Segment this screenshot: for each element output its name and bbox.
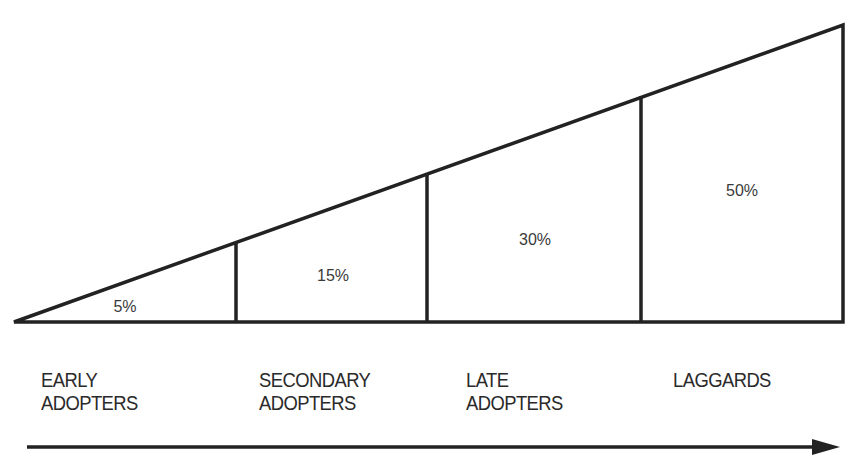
label-line: LAGGARDS — [673, 369, 771, 392]
percent-laggards: 50% — [726, 182, 758, 199]
label-line: SECONDARY — [259, 369, 370, 392]
label-line: ADOPTERS — [466, 392, 563, 415]
label-line: ADOPTERS — [259, 392, 370, 415]
label-line: ADOPTERS — [41, 392, 138, 415]
percent-early: 5% — [113, 298, 136, 315]
label-late-adopters: LATE ADOPTERS — [466, 369, 563, 415]
label-secondary-adopters: SECONDARY ADOPTERS — [259, 369, 370, 415]
percent-secondary: 15% — [317, 267, 349, 284]
arrow-right-icon — [812, 439, 840, 455]
label-early-adopters: EARLY ADOPTERS — [41, 369, 138, 415]
percent-late: 30% — [519, 231, 551, 248]
label-laggards: LAGGARDS — [673, 369, 771, 392]
label-line: EARLY — [41, 369, 138, 392]
label-line: LATE — [466, 369, 563, 392]
